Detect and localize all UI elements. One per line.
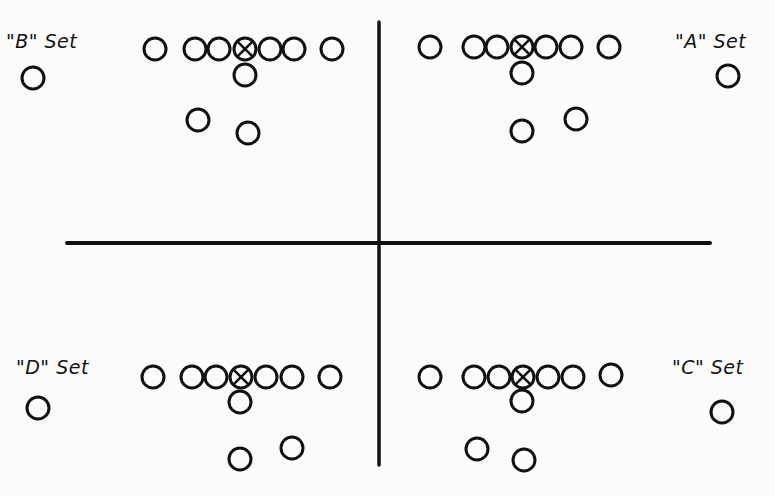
- lineman-player-icon: [537, 366, 559, 388]
- lineman-player-icon: [205, 366, 227, 388]
- back-player-icon: [281, 437, 303, 459]
- lineman-player-icon: [562, 366, 584, 388]
- back-player-icon: [511, 120, 533, 142]
- lineman-player-icon: [463, 366, 485, 388]
- back-player-icon: [511, 390, 533, 412]
- set-label-d: "D" Set: [16, 356, 89, 378]
- back-player-icon: [237, 122, 259, 144]
- back-player-icon: [187, 109, 209, 131]
- lineman-player-icon: [419, 366, 441, 388]
- back-player-icon: [27, 397, 49, 419]
- lineman-player-icon: [560, 36, 582, 58]
- lineman-player-icon: [419, 36, 441, 58]
- formation-set-d: [27, 366, 341, 470]
- lineman-player-icon: [486, 36, 508, 58]
- lineman-player-icon: [319, 366, 341, 388]
- diagram-canvas: [0, 0, 775, 496]
- lineman-player-icon: [488, 366, 510, 388]
- lineman-player-icon: [281, 366, 303, 388]
- back-player-icon: [717, 65, 739, 87]
- back-player-icon: [22, 67, 44, 89]
- back-player-icon: [229, 391, 251, 413]
- lineman-player-icon: [600, 364, 622, 386]
- back-player-icon: [466, 438, 488, 460]
- set-label-c: "C" Set: [672, 356, 743, 378]
- back-player-icon: [513, 449, 535, 471]
- lineman-player-icon: [321, 38, 343, 60]
- lineman-player-icon: [283, 38, 305, 60]
- back-player-icon: [511, 62, 533, 84]
- formation-set-c: [419, 364, 733, 471]
- formation-diagram: "B" Set "A" Set "D" Set "C" Set: [0, 0, 775, 496]
- lineman-player-icon: [259, 38, 281, 60]
- back-player-icon: [229, 448, 251, 470]
- lineman-player-icon: [598, 36, 620, 58]
- back-player-icon: [234, 64, 256, 86]
- lineman-player-icon: [184, 38, 206, 60]
- back-player-icon: [565, 108, 587, 130]
- set-label-b: "B" Set: [6, 30, 77, 52]
- lineman-player-icon: [535, 36, 557, 58]
- set-label-a: "A" Set: [675, 30, 746, 52]
- lineman-player-icon: [144, 38, 166, 60]
- lineman-player-icon: [142, 366, 164, 388]
- lineman-player-icon: [255, 366, 277, 388]
- formation-set-b: [22, 38, 343, 144]
- lineman-player-icon: [463, 36, 485, 58]
- lineman-player-icon: [208, 38, 230, 60]
- lineman-player-icon: [181, 366, 203, 388]
- back-player-icon: [711, 401, 733, 423]
